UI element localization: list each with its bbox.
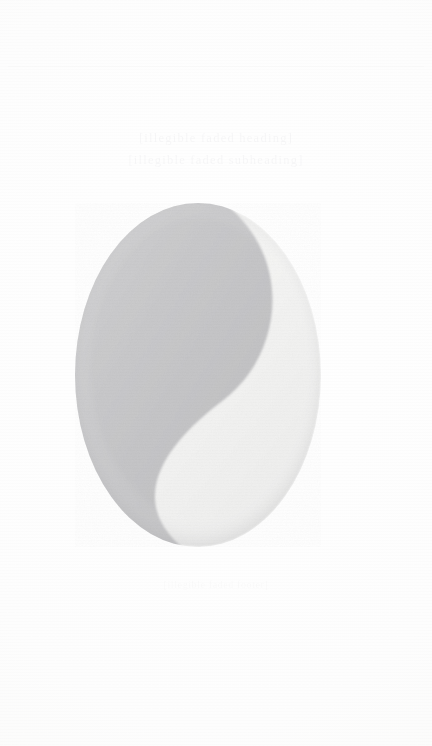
faint-top-rule	[8, 66, 424, 67]
mark-rim-shading	[75, 203, 321, 547]
scanned-page: [illegible faded heading] [illegible fad…	[0, 0, 432, 746]
yin-yang-circle-mark	[75, 203, 321, 547]
yin-yang-mark-svg	[75, 203, 321, 547]
